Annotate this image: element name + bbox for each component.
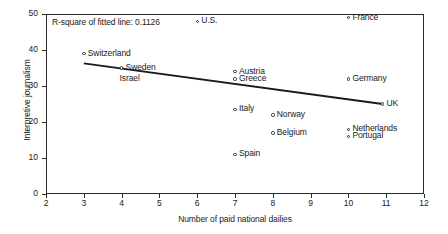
x-tick-label: 2	[34, 198, 58, 208]
data-point-label: Sweden	[126, 62, 156, 72]
scatter-chart-figure: R-square of fitted line: 0.1126 23456789…	[0, 0, 448, 234]
y-tick-mark	[42, 14, 46, 15]
x-tick-label: 9	[299, 198, 323, 208]
x-tick-label: 10	[336, 198, 360, 208]
x-tick-label: 7	[223, 198, 247, 208]
data-point-label: Spain	[239, 148, 260, 158]
x-tick-label: 5	[147, 198, 171, 208]
data-point	[271, 131, 274, 134]
y-tick-mark	[42, 50, 46, 51]
x-tick-label: 4	[110, 198, 134, 208]
data-point-label: Greece	[239, 73, 266, 83]
data-point	[347, 77, 350, 80]
x-tick-label: 8	[261, 198, 285, 208]
data-point	[233, 108, 236, 111]
data-point-label: France	[352, 12, 378, 22]
data-point-label: U.S.	[201, 15, 217, 25]
data-point	[196, 20, 199, 23]
data-point-label: Germany	[352, 73, 386, 83]
y-tick-mark	[42, 86, 46, 87]
data-point-label: Israel	[120, 73, 140, 83]
x-tick-label: 6	[185, 198, 209, 208]
data-point-label: Norway	[277, 109, 305, 119]
data-point-label: Switzerland	[88, 48, 131, 58]
x-axis-label: Number of paid national dailies	[46, 214, 424, 224]
data-point	[233, 77, 236, 80]
y-tick-mark	[42, 122, 46, 123]
x-tick-label: 12	[412, 198, 436, 208]
data-point	[233, 153, 236, 156]
data-point	[347, 128, 350, 131]
data-point-label: Portugal	[352, 130, 383, 140]
y-tick-mark	[42, 158, 46, 159]
data-point-label: Italy	[239, 103, 254, 113]
y-axis-label: Interpretive journalism	[22, 10, 32, 190]
y-tick-mark	[42, 194, 46, 195]
data-point-label: UK	[386, 98, 398, 108]
data-point	[233, 70, 236, 73]
data-point	[381, 102, 384, 105]
data-point-label: Belgium	[277, 127, 307, 137]
x-tick-label: 11	[374, 198, 398, 208]
data-point	[82, 52, 85, 55]
data-point	[271, 113, 274, 116]
x-tick-label: 3	[72, 198, 96, 208]
data-point	[120, 66, 123, 69]
